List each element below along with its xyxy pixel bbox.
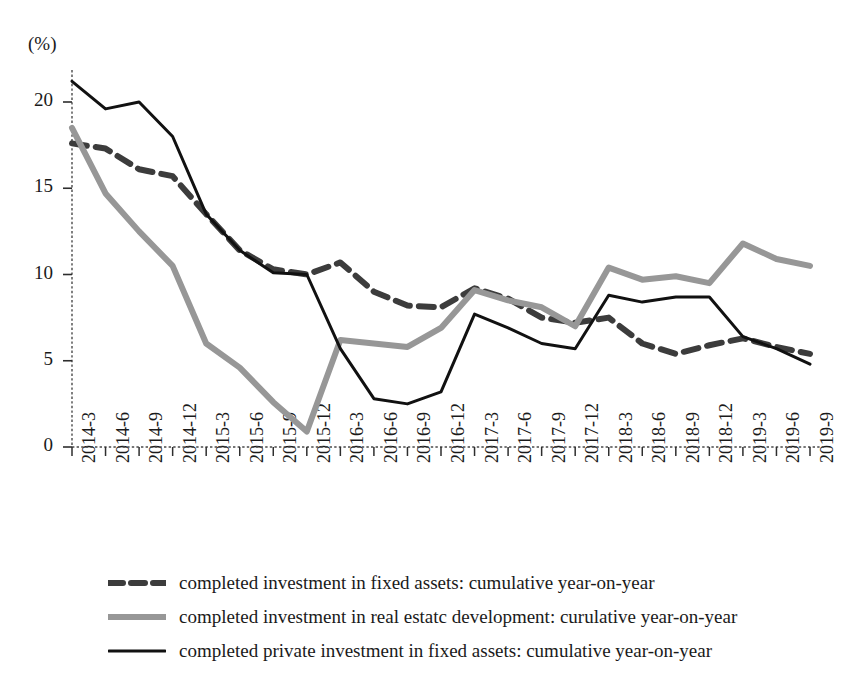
legend-label: completed investment in real estatc deve… — [179, 606, 737, 628]
legend-item[interactable]: completed investment in real estatc deve… — [0, 600, 854, 634]
legend-item[interactable]: completed private investment in fixed as… — [0, 634, 854, 668]
legend-swatch-icon — [108, 644, 166, 658]
legend-label: completed private investment in fixed as… — [179, 640, 712, 662]
chart-legend: completed investment in fixed assets: cu… — [0, 566, 854, 668]
series-line-2 — [72, 81, 810, 404]
legend-swatch-icon — [108, 610, 166, 624]
legend-label: completed investment in fixed assets: cu… — [179, 572, 655, 594]
chart-figure: (%) 05101520 2014-32014-62014-92014-1220… — [0, 0, 854, 700]
series-line-0 — [72, 143, 810, 353]
series-line-1 — [72, 128, 810, 432]
legend-swatch-icon — [108, 576, 166, 590]
legend-item[interactable]: completed investment in fixed assets: cu… — [0, 566, 854, 600]
